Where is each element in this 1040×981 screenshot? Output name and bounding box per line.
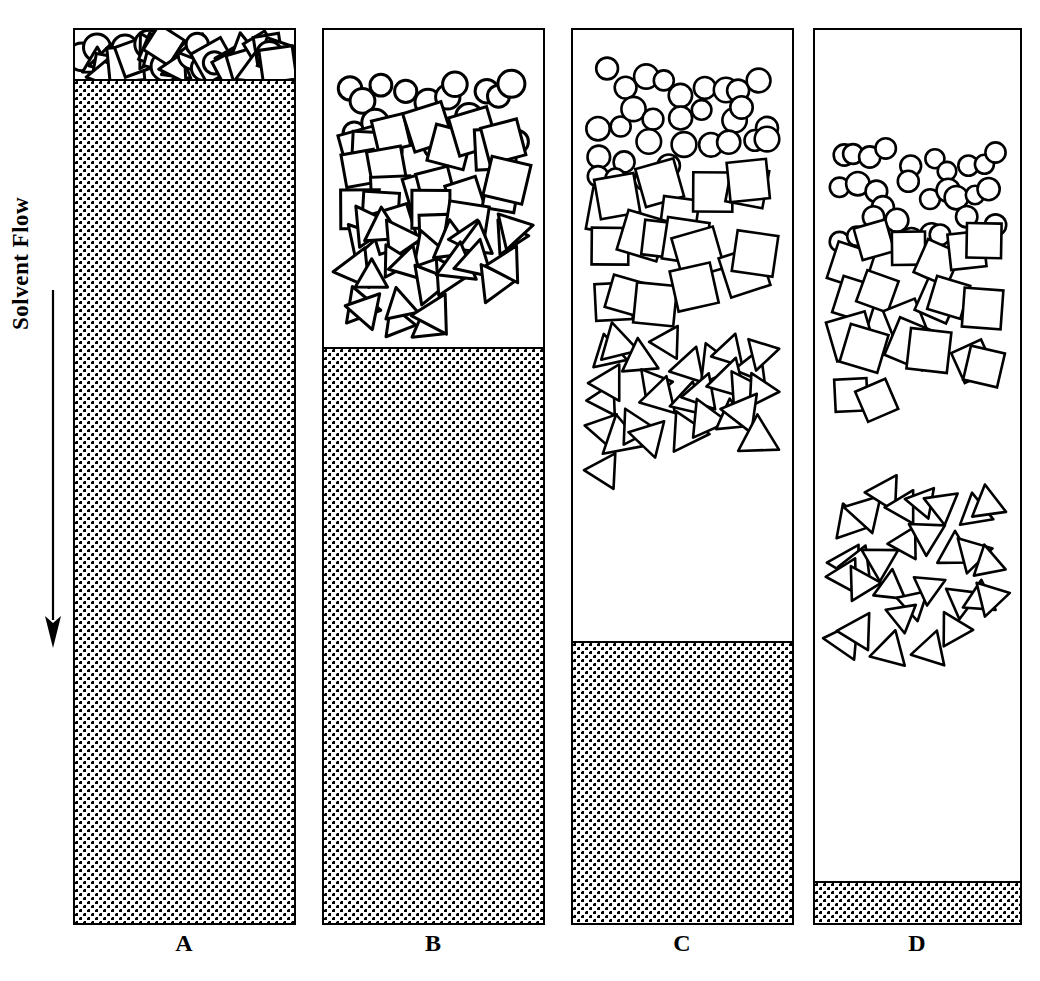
- column-label-b: B: [373, 930, 493, 957]
- chromatography-column-b: [322, 28, 545, 925]
- solvent-flow-label: Solvent Flow: [8, 70, 34, 330]
- chromatography-column-c: [571, 28, 794, 925]
- stipple-region-c: [573, 641, 792, 923]
- column-label-d: D: [857, 930, 977, 957]
- column-label-a: A: [124, 930, 244, 957]
- stipple-region-b: [324, 347, 543, 923]
- chromatography-column-d: [813, 28, 1022, 925]
- stipple-region-d: [815, 881, 1020, 923]
- column-label-c: C: [622, 930, 742, 957]
- chromatography-column-a: [73, 28, 296, 925]
- solvent-flow-arrow-icon: [38, 290, 72, 650]
- shape-layer-d: [815, 30, 1020, 923]
- figure-canvas: Solvent Flow A B C D: [0, 0, 1040, 981]
- stipple-region-a: [75, 79, 294, 923]
